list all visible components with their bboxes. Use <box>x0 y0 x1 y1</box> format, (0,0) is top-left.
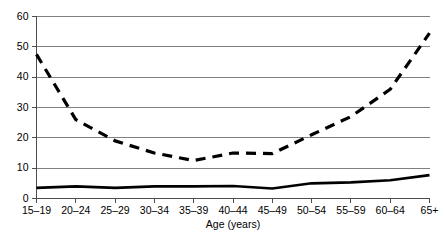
y-axis-ticks: 0102030405060 <box>17 10 37 204</box>
series-line-solid-series <box>37 175 430 188</box>
y-tick-label: 10 <box>17 161 29 173</box>
x-tick-label: 50–54 <box>297 204 326 216</box>
x-tick-label: 35–39 <box>179 204 208 216</box>
x-tick-label: 25–29 <box>100 204 129 216</box>
y-tick-label: 60 <box>17 10 29 22</box>
x-tick-label: 15–19 <box>22 204 51 216</box>
series-line-dashed-series <box>37 33 430 160</box>
x-tick-label: 65+ <box>421 204 439 216</box>
x-tick-label: 45–49 <box>258 204 287 216</box>
x-tick-label: 30–34 <box>140 204 169 216</box>
x-tick-label: 20–24 <box>61 204 90 216</box>
y-tick-label: 20 <box>17 131 29 143</box>
x-tick-label: 40–44 <box>218 204 247 216</box>
line-chart: 010203040506015–1920–2425–2930–3435–3940… <box>0 0 446 244</box>
x-axis-title: Age (years) <box>206 218 260 230</box>
x-axis-ticks: 15–1920–2425–2930–3435–3940–4445–4950–54… <box>22 199 439 217</box>
gridlines <box>37 17 430 169</box>
x-tick-label: 60–64 <box>376 204 405 216</box>
y-tick-label: 0 <box>23 192 29 204</box>
series-group <box>37 33 430 188</box>
x-tick-label: 55–59 <box>336 204 365 216</box>
chart-container: 010203040506015–1920–2425–2930–3435–3940… <box>0 0 446 244</box>
y-tick-label: 40 <box>17 70 29 82</box>
y-tick-label: 50 <box>17 40 29 52</box>
y-tick-label: 30 <box>17 101 29 113</box>
